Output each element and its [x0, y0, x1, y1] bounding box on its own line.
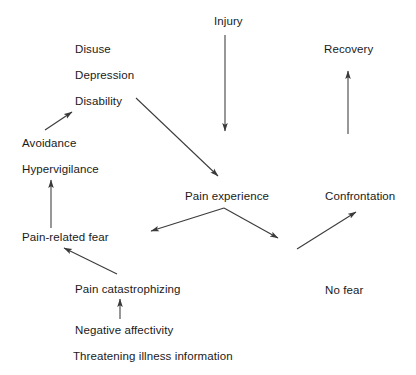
node-label-injury: Injury [214, 15, 243, 28]
edge-arrow-avoidance-to-disability [45, 112, 72, 130]
node-label-hypervigilance: Hypervigilance [22, 163, 99, 176]
node-label-negative-affectivity: Negative affectivity [75, 324, 173, 337]
fear-avoidance-diagram: InjuryDisuseRecoveryDepressionDisability… [0, 0, 416, 375]
edge-arrow-disability-to-pain-experience [136, 98, 218, 176]
diagram-edges-layer [0, 0, 416, 375]
node-label-pain-related-fear: Pain-related fear [22, 231, 109, 244]
node-label-recovery: Recovery [324, 43, 373, 56]
node-label-no-fear: No fear [325, 284, 363, 297]
node-label-pain-catastrophizing: Pain catastrophizing [75, 283, 181, 296]
node-label-disability: Disability [75, 95, 122, 108]
edge-arrow-pain-experience-to-pain-related-fear [151, 208, 224, 231]
node-label-avoidance: Avoidance [22, 137, 76, 150]
node-label-threatening-illness-information: Threatening illness information [73, 350, 233, 363]
node-label-disuse: Disuse [75, 43, 111, 56]
node-label-depression: Depression [75, 69, 134, 82]
edge-arrow-pain-catastrophizing-to-pain-related-fear [64, 248, 117, 274]
node-label-confrontation: Confrontation [325, 190, 395, 203]
edge-arrow-pain-experience-to-no-fear [224, 208, 278, 238]
node-label-pain-experience: Pain experience [185, 190, 269, 203]
edge-arrow-no-fear-to-confrontation [297, 212, 356, 249]
